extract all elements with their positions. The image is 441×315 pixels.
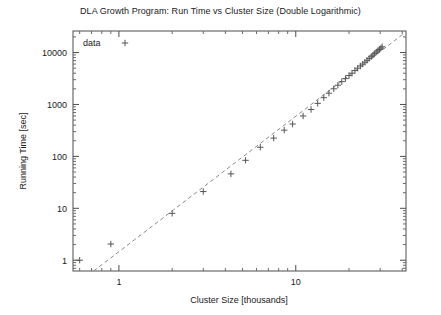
data-point-marker xyxy=(242,157,248,163)
y-tick-label: 100 xyxy=(52,152,67,162)
y-axis-ticks: 110100100010000 xyxy=(42,37,406,268)
x-axis-label: Cluster Size [thousands] xyxy=(190,295,288,305)
plot-canvas: 110100100010000 110 data Cluster Size [t… xyxy=(0,0,441,315)
data-point-marker xyxy=(335,82,341,88)
data-point-marker xyxy=(331,86,337,92)
data-point-marker xyxy=(371,51,377,57)
x-tick-label: 10 xyxy=(291,277,301,287)
data-point-marker xyxy=(257,144,263,150)
data-point-marker xyxy=(300,113,306,119)
y-tick-label: 10000 xyxy=(42,48,67,58)
chart-figure: DLA Growth Program: Run Time vs Cluster … xyxy=(0,0,441,315)
y-axis-label: Running Time [sec] xyxy=(18,112,28,189)
data-point-marker xyxy=(314,100,320,106)
plot-frame xyxy=(73,31,406,271)
data-point-marker xyxy=(76,257,82,263)
data-point-marker xyxy=(321,94,327,100)
data-point-marker xyxy=(378,45,384,51)
data-point-marker xyxy=(108,241,114,247)
x-axis-ticks: 110 xyxy=(80,31,403,287)
y-tick-label: 1000 xyxy=(47,100,67,110)
data-point-marker xyxy=(169,210,175,216)
data-point-marker xyxy=(370,52,376,58)
data-point-marker xyxy=(326,90,332,96)
data-point-marker xyxy=(281,127,287,133)
y-tick-label: 10 xyxy=(57,204,67,214)
y-tick-label: 1 xyxy=(62,256,67,266)
data-point-marker xyxy=(308,106,314,112)
x-tick-label: 1 xyxy=(116,277,121,287)
legend-label: data xyxy=(83,38,101,48)
legend-marker-plus-icon xyxy=(122,40,128,46)
data-point-marker xyxy=(375,48,381,54)
legend: data xyxy=(83,38,128,48)
data-point-marker xyxy=(228,171,234,177)
data-point-marker xyxy=(270,135,276,141)
data-point-marker xyxy=(289,121,295,127)
data-points xyxy=(76,44,385,264)
data-point-marker xyxy=(342,75,348,81)
